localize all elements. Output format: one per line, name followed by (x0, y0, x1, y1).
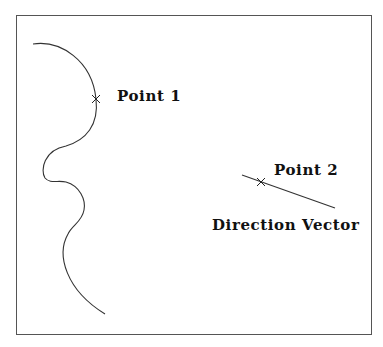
direction-vector-label: Direction Vector (212, 218, 359, 233)
point2-x-marker-icon (257, 178, 265, 186)
point2-label: Point 2 (274, 163, 338, 178)
direction-vector-line (242, 175, 335, 208)
curve (33, 43, 105, 314)
point1-label: Point 1 (117, 89, 181, 104)
